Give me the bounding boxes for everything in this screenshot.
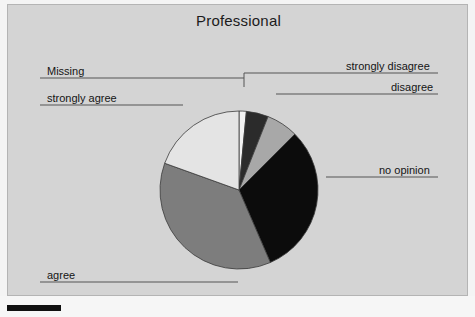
- pie-slices: [160, 111, 318, 269]
- label-no-opinion: no opinion: [379, 164, 430, 176]
- label-missing: Missing: [47, 65, 84, 77]
- bottom-strip: [0, 296, 475, 317]
- bottom-black-bar: [7, 305, 61, 311]
- label-disagree: disagree: [391, 81, 433, 93]
- label-strongly-disagree: strongly disagree: [346, 60, 430, 72]
- chart-screenshot: Professional strongly dis: [0, 0, 475, 317]
- pie-chart-graphic: [8, 5, 469, 297]
- label-strongly-agree: strongly agree: [47, 92, 117, 104]
- label-agree: agree: [47, 269, 75, 281]
- chart-panel: Professional strongly dis: [7, 4, 468, 296]
